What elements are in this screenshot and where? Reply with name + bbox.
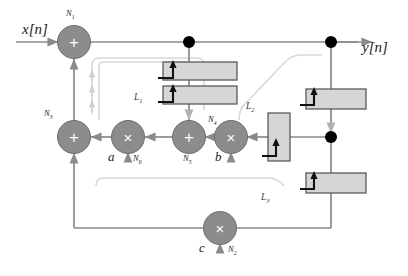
- coefficient-label-b: b: [215, 150, 222, 163]
- coefficient-label-c: c: [199, 241, 205, 254]
- node-N3-symbol: +: [69, 128, 79, 147]
- node-label-N6: N6: [133, 154, 142, 165]
- junction-dot-J2: [325, 36, 337, 48]
- node-N2-symbol: ×: [216, 220, 225, 237]
- node-label-N2: N2: [228, 245, 237, 256]
- loop-contour-L3: [96, 178, 284, 186]
- node-label-N4: N4: [208, 115, 217, 126]
- junction-dot-J3: [325, 131, 337, 143]
- loop-label-L2: L2: [246, 102, 255, 113]
- loop-label-L3: L3: [261, 193, 270, 204]
- node-label-N5: N5: [183, 154, 192, 165]
- delay-block-D3: [268, 113, 290, 161]
- node-N5-symbol: +: [184, 128, 194, 147]
- node-label-N3: N3: [44, 109, 53, 120]
- output-signal-label: y[n]: [362, 40, 388, 55]
- diagram-canvas: + + × + × ×: [0, 0, 408, 276]
- node-label-N1: N1: [66, 9, 75, 20]
- node-N6-symbol: ×: [124, 129, 133, 146]
- signal-flow-diagram: + + × + × × x[n] y[n] N1 N3 N6 N5 N4 N2 …: [0, 0, 408, 276]
- junction-dot-J1: [183, 36, 195, 48]
- loop-label-L1: L1: [134, 93, 143, 104]
- node-N4-symbol: ×: [227, 129, 236, 146]
- coefficient-label-a: a: [108, 150, 115, 163]
- node-N1-symbol: +: [69, 33, 79, 52]
- input-signal-label: x[n]: [22, 22, 48, 37]
